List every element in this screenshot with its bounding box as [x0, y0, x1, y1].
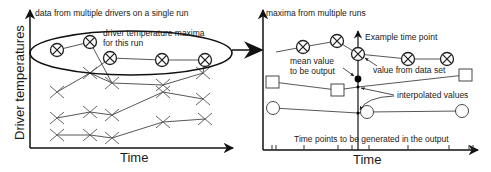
- interpolated-point: [357, 112, 360, 115]
- mean-value-label-line2: to be output: [290, 66, 336, 76]
- circled-x-icon: [199, 54, 212, 67]
- x-marker: [50, 112, 64, 124]
- circled-x-icon: [297, 41, 310, 54]
- circled-x-icon: [331, 35, 344, 48]
- mean-value-point: [355, 76, 362, 83]
- circled-x-icon: [402, 53, 415, 66]
- x-marker: [50, 86, 64, 98]
- value-from-data-set-pointer: [365, 58, 377, 66]
- square-marker: [459, 69, 472, 81]
- left-panel-title: data from multiple drivers on a single r…: [35, 8, 189, 18]
- circle-marker: [267, 102, 280, 115]
- square-marker: [266, 76, 279, 88]
- circled-x-icon: [84, 36, 97, 49]
- driver-series-line-2: [57, 92, 203, 118]
- x-marker: [83, 106, 97, 118]
- square-marker: [331, 84, 344, 96]
- ellipse-label-line1: driver temperature maxima: [103, 28, 205, 38]
- driver-series-line-1: [57, 73, 203, 92]
- circled-x-icon: [104, 52, 117, 65]
- transition-arrow-icon: [232, 43, 262, 57]
- x-marker: [105, 132, 119, 144]
- mean-value-pointer: [343, 68, 354, 76]
- square-series-line: [273, 75, 465, 90]
- circled-x-icon: [156, 54, 169, 67]
- interpolated-pointer-upper: [361, 88, 394, 95]
- circled-x-icon: [441, 53, 454, 66]
- circle-marker: [361, 106, 374, 119]
- right-panel: maxima from multiple runs Time Time poin…: [263, 8, 478, 167]
- ellipse-label-line2: for this run: [103, 38, 143, 48]
- driver-series-line-3: [57, 119, 205, 138]
- x-marker: [105, 109, 119, 121]
- circled-x-icon: [51, 44, 64, 57]
- right-x-axis-label: Time: [353, 152, 381, 167]
- mean-value-label-line1: mean value: [290, 56, 334, 66]
- interpolated-values-label: interpolated values: [397, 90, 468, 100]
- example-time-point-label: Example time point: [365, 32, 438, 42]
- x-marker: [156, 86, 170, 98]
- diagram-canvas: data from multiple drivers on a single r…: [0, 0, 491, 172]
- value-from-data-set-label: value from data set: [373, 65, 446, 75]
- left-x-axis-label: Time: [120, 150, 148, 165]
- circle-marker: [456, 105, 469, 118]
- left-panel: data from multiple drivers on a single r…: [12, 8, 233, 165]
- time-points-label: Time points to be generated in the outpu…: [294, 134, 449, 144]
- left-y-axis-label: Driver temperatures: [12, 25, 27, 140]
- interpolated-point: [357, 86, 360, 89]
- right-panel-title: maxima from multiple runs: [266, 8, 366, 18]
- driver-series: [50, 42, 212, 144]
- circled-x-icon: [352, 48, 365, 61]
- x-marker: [196, 93, 210, 105]
